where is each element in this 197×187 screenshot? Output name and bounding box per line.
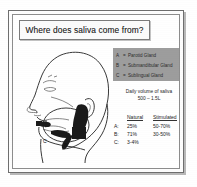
table-row: C: 3-4% (114, 138, 180, 146)
daily-volume-block: Daily volume of saliva 500 – 1.5L (113, 89, 180, 101)
table-cell-stimulated-c (153, 138, 180, 146)
slide-canvas: Where does saliva come from? A = Parotid… (12, 14, 180, 169)
table-cell-stimulated-a: 50-70% (153, 122, 180, 130)
legend-item-b: B = Submandibular Gland (116, 60, 178, 70)
page-title: Where does saliva come from? (25, 25, 143, 35)
lateral-head-diagram: C B (21, 47, 121, 165)
legend-label-c: Sublingual Gland (128, 73, 163, 78)
table-header-stimulated: Stimulated (153, 113, 180, 122)
title-box: Where does saliva come from? (19, 20, 150, 40)
table-header-row: Natural Stimulated (114, 113, 180, 122)
daily-volume-value: 500 – 1.5L (113, 96, 180, 101)
legend-item-a: A = Parotid Gland (116, 50, 178, 60)
legend-item-c: C = Sublingual Gland (116, 70, 178, 80)
table-row: A: 25% 50-70% (114, 122, 180, 130)
gland-output-table: Natural Stimulated A: 25% 50-70% B: 71% … (114, 113, 180, 146)
legend-label-a: Parotid Gland (128, 53, 156, 58)
legend-box: A = Parotid Gland B = Submandibular Glan… (113, 48, 180, 81)
table-row: B: 71% 30-50% (114, 130, 180, 138)
daily-volume-label: Daily volume of saliva (113, 89, 180, 94)
table-cell-natural-a: 25% (127, 122, 153, 130)
legend-label-b: Submandibular Gland (128, 63, 172, 68)
table-cell-natural-b: 71% (127, 130, 153, 138)
slide-frame: Where does saliva come from? A = Parotid… (8, 10, 184, 173)
figure-label-c: C (43, 138, 47, 144)
table-header-natural: Natural (127, 113, 153, 122)
table-cell-natural-c: 3-4% (127, 138, 153, 146)
table-cell-stimulated-b: 30-50% (153, 130, 180, 138)
